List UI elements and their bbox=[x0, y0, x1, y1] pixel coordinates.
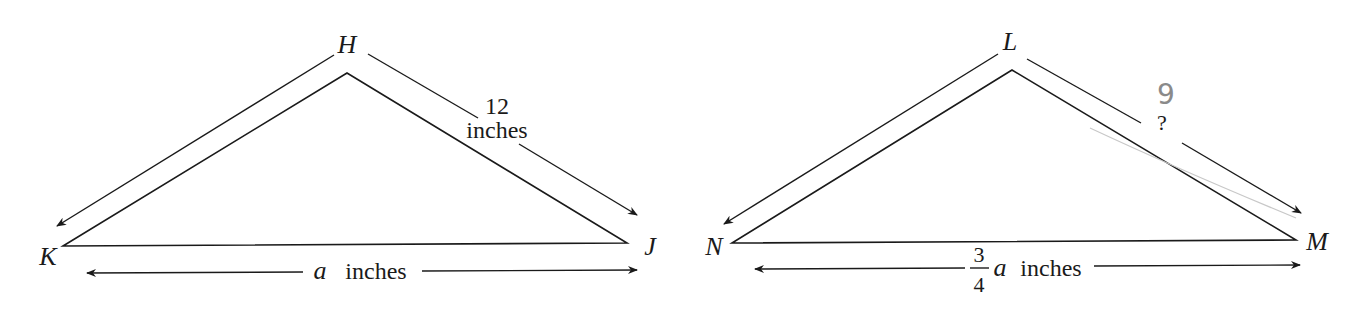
side-ln-arrow-icon bbox=[724, 54, 998, 224]
side-nm-arrow-left-icon bbox=[755, 268, 965, 269]
vertex-label-h: H bbox=[337, 30, 358, 59]
triangle-lmn-shape bbox=[732, 70, 1296, 243]
triangle-diagram: H K J 12 inches a inches L N M 9 ? 3 4 a… bbox=[0, 0, 1361, 313]
side-nm-fraction-numerator: 3 bbox=[974, 242, 985, 267]
triangle-hjk-shape bbox=[63, 73, 627, 246]
side-nm-variable: a bbox=[994, 253, 1007, 282]
vertex-label-l: L bbox=[1002, 27, 1017, 56]
side-lm-arrow-icon bbox=[1182, 143, 1301, 213]
side-hj-arrow-segment-top bbox=[368, 54, 478, 118]
side-nm-arrow-right-icon bbox=[1094, 265, 1300, 266]
side-kj-variable: a bbox=[314, 256, 327, 285]
handwritten-answer: 9 bbox=[1157, 78, 1175, 111]
side-lm-unknown: ? bbox=[1157, 110, 1167, 135]
vertex-label-j: J bbox=[644, 232, 657, 261]
side-kj-arrow-right-icon bbox=[422, 270, 637, 271]
side-nm-unit: inches bbox=[1020, 255, 1081, 281]
vertex-label-k: K bbox=[38, 242, 58, 271]
pencil-mark bbox=[1090, 128, 1296, 218]
vertex-label-m: M bbox=[1305, 227, 1329, 256]
side-hk-arrow-icon bbox=[57, 55, 334, 226]
side-hj-length-unit: inches bbox=[466, 117, 527, 143]
side-kj-unit: inches bbox=[345, 258, 406, 284]
side-kj-arrow-left-icon bbox=[87, 272, 303, 273]
side-hj-arrow-icon bbox=[519, 144, 637, 215]
vertex-label-n: N bbox=[704, 232, 724, 261]
triangle-hjk: H K J 12 inches a inches bbox=[38, 30, 657, 285]
side-nm-fraction-denominator: 4 bbox=[974, 272, 985, 297]
side-hj-length-value: 12 bbox=[485, 93, 509, 119]
triangle-lmn: L N M 9 ? 3 4 a inches bbox=[704, 27, 1329, 297]
